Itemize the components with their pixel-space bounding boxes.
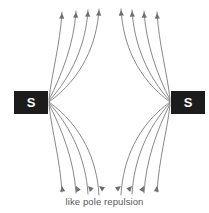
field-arrowhead [96, 10, 102, 16]
field-arrowheads-group [59, 10, 160, 192]
magnet-left-south-pole: S [14, 91, 48, 114]
field-arrowhead [129, 11, 135, 17]
field-line [49, 104, 76, 193]
magnet-right-pole-label: S [184, 96, 193, 109]
field-line [49, 11, 76, 100]
field-arrowhead [141, 12, 147, 18]
field-arrowhead [59, 13, 65, 19]
magnet-left-pole-label: S [27, 96, 36, 109]
field-line [144, 11, 170, 100]
field-arrowhead [118, 10, 124, 16]
field-arrowhead [154, 13, 160, 19]
field-arrowhead [139, 185, 146, 192]
field-arrowhead [85, 11, 91, 17]
magnet-right-south-pole: S [171, 91, 205, 114]
field-line [144, 104, 170, 193]
diagram-caption: like pole repulsion [0, 196, 209, 207]
field-arrowhead [73, 12, 79, 18]
field-arrowhead [74, 185, 81, 192]
field-lines-group [49, 9, 170, 195]
field-arrowhead [59, 186, 65, 192]
magnetic-field-diagram: S S like pole repulsion [0, 0, 209, 213]
field-arrowhead [154, 186, 160, 192]
